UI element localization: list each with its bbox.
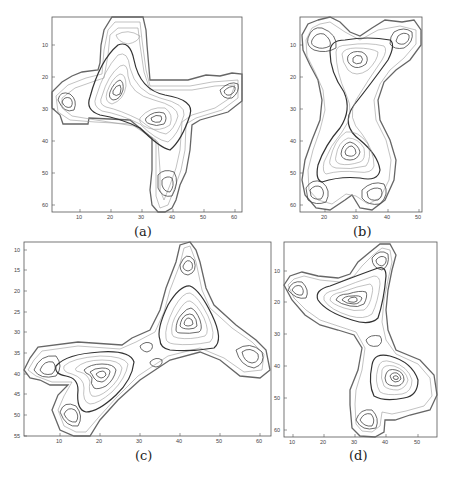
svg-text:10: 10 [290,42,296,48]
panel-c-frame [24,242,271,436]
svg-text:15: 15 [14,267,20,273]
svg-text:10: 10 [76,214,82,220]
panel-b: 20 30 40 50 10 20 30 40 50 60 (b) [290,17,422,239]
svg-text:20: 20 [321,214,327,220]
svg-text:10: 10 [289,439,295,445]
panel-b-caption: (b) [353,224,371,239]
svg-text:25: 25 [14,309,20,315]
svg-text:50: 50 [216,438,222,444]
panel-a-yticks: 10 20 30 40 50 60 [42,42,55,208]
svg-text:40: 40 [42,138,48,144]
svg-text:30: 30 [136,438,142,444]
svg-text:30: 30 [138,214,144,220]
panel-d-xticks: 10 20 30 40 50 [289,434,420,445]
svg-text:50: 50 [290,170,296,176]
svg-text:30: 30 [14,329,20,335]
svg-text:60: 60 [256,438,262,444]
panel-d-caption: (d) [349,448,367,463]
svg-text:45: 45 [14,391,20,397]
panel-c-caption: (c) [135,448,152,463]
panel-d-yticks: 10 20 30 40 50 60 [274,268,287,433]
svg-text:20: 20 [320,439,326,445]
svg-text:40: 40 [290,138,296,144]
panel-c: 10 20 30 40 50 60 10 15 20 25 30 35 40 4… [14,242,271,463]
svg-text:20: 20 [290,74,296,80]
svg-text:20: 20 [14,288,20,294]
svg-text:60: 60 [42,202,48,208]
svg-text:30: 30 [42,106,48,112]
panel-a-caption: (a) [134,224,152,239]
svg-text:20: 20 [107,214,113,220]
svg-text:30: 30 [290,106,296,112]
svg-text:40: 40 [274,363,280,369]
svg-text:60: 60 [290,202,296,208]
svg-text:50: 50 [14,412,20,418]
svg-text:20: 20 [42,74,48,80]
svg-text:40: 40 [176,438,182,444]
svg-text:10: 10 [14,247,20,253]
svg-text:30: 30 [274,331,280,337]
svg-text:40: 40 [14,371,20,377]
svg-text:50: 50 [414,439,420,445]
svg-text:50: 50 [415,214,421,220]
panel-d: 10 20 30 40 50 10 20 30 40 50 60 (d) [274,242,437,463]
panel-b-frame [300,17,422,212]
svg-text:40: 40 [382,439,388,445]
svg-text:10: 10 [42,42,48,48]
svg-text:50: 50 [42,170,48,176]
panel-b-yticks: 10 20 30 40 50 60 [290,42,303,208]
panel-a: 10 20 30 40 50 60 10 20 30 40 50 60 (a) [42,17,242,239]
svg-text:50: 50 [274,395,280,401]
svg-text:30: 30 [351,439,357,445]
svg-text:10: 10 [56,438,62,444]
svg-text:20: 20 [274,299,280,305]
panel-a-outer-boundary [52,17,242,212]
svg-text:60: 60 [274,427,280,433]
svg-text:20: 20 [96,438,102,444]
svg-text:30: 30 [352,214,358,220]
svg-text:10: 10 [274,268,280,274]
svg-text:35: 35 [14,350,20,356]
panel-c-xticks: 10 20 30 40 50 60 [56,433,262,444]
panel-b-main-contour [317,38,392,182]
figure-canvas: 10 20 30 40 50 60 10 20 30 40 50 60 (a) [0,0,451,477]
svg-text:50: 50 [200,214,206,220]
svg-text:40: 40 [169,214,175,220]
panel-c-outer-boundary [24,242,270,436]
panel-b-xticks: 20 30 40 50 [321,209,421,220]
svg-text:60: 60 [231,214,237,220]
svg-text:55: 55 [14,433,20,439]
svg-text:40: 40 [384,214,390,220]
panel-c-yticks: 10 15 20 25 30 35 40 45 50 55 [14,247,27,439]
